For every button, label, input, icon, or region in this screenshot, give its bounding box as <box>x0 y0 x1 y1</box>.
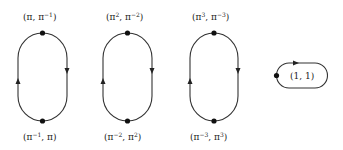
loop-2: (π2, π−2) (π−2, π2) <box>101 11 155 142</box>
loop-1-top-label: (π, π−1) <box>23 11 56 22</box>
vertex-dot-top <box>40 30 45 35</box>
arrow-right-icon <box>293 61 299 66</box>
loop-2-bottom-label: (π−2, π2) <box>104 131 141 142</box>
arrow-down-icon <box>236 68 241 74</box>
loop-1: (π, π−1) (π−1, π) <box>16 11 70 142</box>
arrow-down-icon <box>65 68 70 74</box>
arrow-up-icon <box>188 78 193 84</box>
diagram-canvas: (π, π−1) (π−1, π) (π2, π−2) (π−2, π2) (π… <box>0 0 343 150</box>
loop-3: (π3, π−3) (π−3, π3) <box>188 11 241 142</box>
arrow-up-icon <box>101 78 106 84</box>
loop-1-bottom-label: (π−1, π) <box>23 131 56 142</box>
small-loop: (1, 1) <box>274 61 328 89</box>
vertex-dot-top <box>211 30 216 35</box>
small-loop-label: (1, 1) <box>290 71 314 81</box>
vertex-dot <box>274 73 279 78</box>
vertex-dot-bottom <box>40 118 45 123</box>
loop-2-top-label: (π2, π−2) <box>106 11 143 22</box>
vertex-dot-bottom <box>125 118 130 123</box>
vertex-dot-top <box>125 30 130 35</box>
vertex-dot-bottom <box>211 118 216 123</box>
loop-3-bottom-label: (π−3, π3) <box>190 131 227 142</box>
arrow-up-icon <box>16 78 21 84</box>
arrow-down-icon <box>150 68 155 74</box>
loop-3-top-label: (π3, π−3) <box>192 11 229 22</box>
